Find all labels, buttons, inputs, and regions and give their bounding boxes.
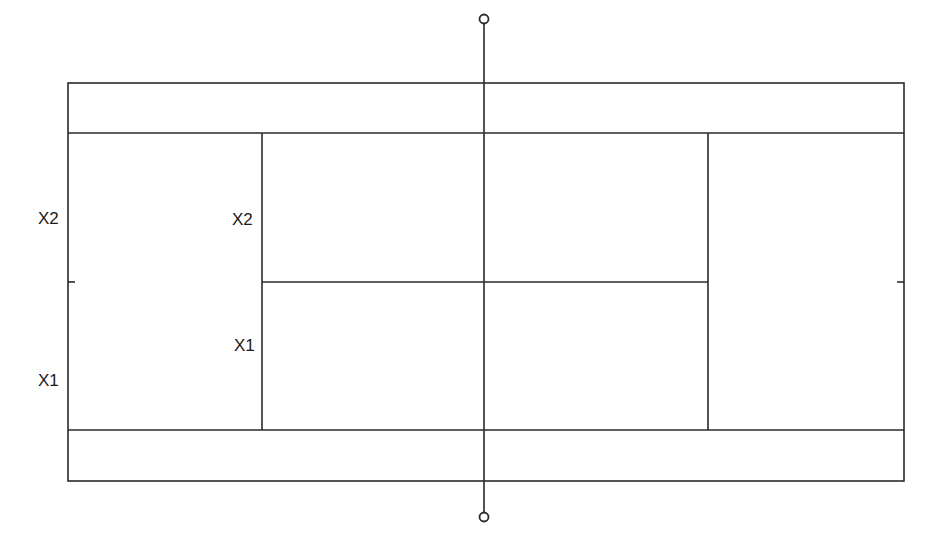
label-left-outer-upper: X2 (38, 210, 59, 227)
label-left-outer-lower: X1 (38, 372, 59, 389)
net-post-top (480, 15, 489, 24)
label-left-inner-upper: X2 (232, 211, 253, 228)
net-post-bottom (480, 513, 489, 522)
tennis-court-diagram (0, 0, 932, 551)
label-left-inner-lower: X1 (234, 337, 255, 354)
